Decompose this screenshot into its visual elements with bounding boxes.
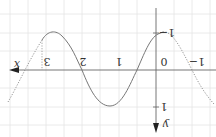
grid [0, 0, 216, 137]
origin-label: 0 [161, 55, 168, 68]
y-axis-label: y [162, 118, 170, 131]
y-axis-arrow-icon [153, 123, 159, 133]
x-axis [9, 67, 216, 73]
curve-dotted-right [163, 32, 214, 104]
x-tick-2-label: 2 [80, 55, 87, 68]
curve-solid [42, 32, 163, 106]
x-tick-neg1-label: 1− [189, 55, 205, 68]
function-plot: x y 0 1− 1 2 3 1− 1 [0, 0, 216, 137]
y-axis [153, 8, 159, 133]
x-tick-3-label: 3 [44, 55, 51, 68]
axis-labels: x y 0 1− 1 2 3 1− 1 [13, 26, 205, 131]
y-tick-bottom-label: 1 [161, 100, 168, 113]
x-axis-label: x [13, 58, 20, 71]
y-tick-top-label: 1− [159, 26, 175, 39]
x-tick-1-label: 1 [116, 55, 123, 68]
